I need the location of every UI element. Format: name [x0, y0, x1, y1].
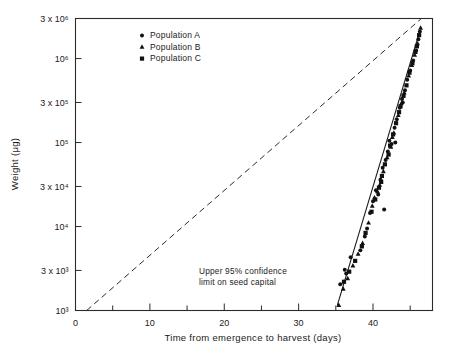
data-point	[387, 139, 391, 143]
data-point	[341, 286, 346, 290]
data-point	[363, 235, 367, 239]
data-point	[342, 280, 346, 284]
data-point	[397, 110, 401, 114]
data-point	[369, 210, 373, 214]
x-axis-tick-labels: 010203040	[73, 318, 378, 328]
data-point	[407, 71, 411, 75]
chart-figure: 10³3 x 10³10⁴3 x 10⁴10⁵3 x 10⁵10⁶3 x 10⁶…	[0, 0, 461, 353]
data-point	[360, 244, 364, 248]
data-point	[404, 83, 408, 87]
data-point	[405, 78, 409, 82]
legend-marker-circle	[140, 34, 144, 38]
data-point	[393, 126, 397, 130]
data-point	[413, 50, 417, 54]
x-tick-label: 40	[368, 318, 378, 328]
y-axis-tick-labels: 10³3 x 10³10⁴3 x 10⁴10⁵3 x 10⁵10⁶3 x 10⁶	[40, 14, 69, 316]
data-point	[394, 121, 398, 125]
data-point	[415, 44, 419, 48]
data-point	[343, 268, 347, 272]
data-point	[416, 37, 420, 41]
legend-marker-square	[140, 57, 144, 61]
data-point	[388, 143, 392, 147]
y-tick-label: 10⁶	[55, 54, 69, 64]
scatter-plot-svg: 10³3 x 10³10⁴3 x 10⁴10⁵3 x 10⁵10⁶3 x 10⁶…	[0, 0, 461, 353]
legend-label: Population A	[150, 30, 200, 40]
data-point	[377, 186, 381, 190]
data-point	[395, 117, 399, 121]
data-point	[418, 25, 423, 29]
y-tick-label: 3 x 10⁴	[40, 182, 69, 192]
data-point	[387, 152, 391, 156]
data-point	[393, 141, 397, 145]
data-point	[383, 162, 387, 166]
y-tick-label: 3 x 10⁶	[40, 14, 69, 24]
x-axis-title: Time from emergence to harvest (days)	[164, 332, 341, 343]
data-point	[358, 248, 362, 252]
data-point	[373, 197, 377, 201]
data-point	[349, 255, 353, 259]
confidence-limit-annotation: Upper 95% confidence limit on seed capit…	[199, 266, 287, 287]
y-axis-ticks	[76, 19, 82, 311]
data-point	[365, 226, 369, 230]
data-point	[379, 180, 383, 184]
annotation-line-2: limit on seed capital	[199, 277, 276, 287]
data-point	[418, 30, 422, 34]
data-point	[347, 270, 351, 274]
data-point	[363, 231, 367, 235]
x-tick-label: 10	[145, 318, 155, 328]
data-point	[417, 33, 421, 37]
legend-marker-triangle	[140, 44, 145, 48]
annotation-line-1: Upper 95% confidence	[199, 266, 287, 276]
y-tick-label: 3 x 10³	[41, 266, 69, 276]
y-axis-title: Weight (μg)	[9, 138, 20, 190]
y-tick-label: 10³	[55, 306, 68, 316]
x-tick-label: 20	[219, 318, 229, 328]
legend-label: Population B	[150, 42, 201, 52]
x-tick-label: 0	[73, 318, 78, 328]
data-point	[338, 282, 342, 286]
data-point	[366, 220, 371, 224]
x-tick-label: 30	[294, 318, 304, 328]
series-circle	[338, 30, 422, 287]
data-point	[410, 61, 414, 65]
y-tick-label: 3 x 10⁵	[40, 98, 69, 108]
chart-legend: Population APopulation BPopulation C	[140, 30, 201, 63]
x-axis-ticks	[76, 304, 411, 311]
data-point	[391, 132, 395, 136]
data-point	[351, 263, 356, 267]
data-point	[398, 104, 402, 108]
data-point	[380, 174, 384, 178]
y-tick-label: 10⁴	[55, 222, 69, 232]
legend-label: Population C	[150, 53, 201, 63]
data-point	[382, 207, 386, 211]
y-tick-label: 10⁵	[55, 138, 69, 148]
data-point	[353, 259, 357, 263]
data-point	[370, 203, 375, 207]
data-point	[401, 94, 405, 98]
regression-fit-line	[337, 33, 419, 305]
data-point	[360, 241, 365, 245]
